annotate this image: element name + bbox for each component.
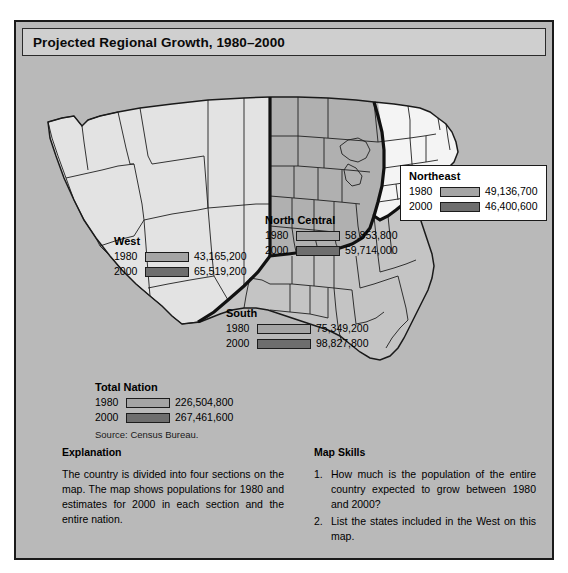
figure-frame: Projected Regional Growth, 1980–2000 .st… <box>14 20 554 560</box>
region-name-west: West <box>114 236 247 247</box>
region-row-nc-1980: 1980 58,853,800 <box>265 229 398 242</box>
bar-1980 <box>145 252 189 262</box>
bar-1980 <box>126 398 170 408</box>
region-label-south: South 1980 75,349,200 2000 98,827,800 <box>226 308 369 352</box>
row-value: 43,165,200 <box>194 251 247 262</box>
row-value: 98,827,800 <box>316 338 369 349</box>
row-value: 58,853,800 <box>345 230 398 241</box>
map-skills-item-2: 2. List the states included in the West … <box>314 514 536 544</box>
region-row-total-1980: 1980 226,504,800 <box>95 396 233 409</box>
row-value: 267,461,600 <box>175 412 233 423</box>
region-label-total-nation: Total Nation 1980 226,504,800 2000 267,4… <box>95 382 233 426</box>
page-root: Projected Regional Growth, 1980–2000 .st… <box>0 0 568 573</box>
region-row-south-1980: 1980 75,349,200 <box>226 322 369 335</box>
item-text: List the states included in the West on … <box>331 515 536 542</box>
region-name-north-central: North Central <box>265 215 398 226</box>
explanation-body: The country is divided into four section… <box>62 467 284 527</box>
figure-title-bar: Projected Regional Growth, 1980–2000 <box>22 28 546 56</box>
row-value: 65,519,200 <box>194 266 247 277</box>
explanation-column: Explanation The country is divided into … <box>62 446 284 527</box>
item-number: 1. <box>314 467 323 482</box>
row-year: 1980 <box>95 397 126 408</box>
row-year: 2000 <box>409 201 440 212</box>
map-area: .st-line { fill:none; stroke:#1f1f1f; st… <box>22 60 546 442</box>
bar-2000 <box>145 267 189 277</box>
region-label-north-central: North Central 1980 58,853,800 2000 59,71… <box>265 215 398 259</box>
item-text: How much is the population of the entire… <box>331 468 536 510</box>
region-row-west-1980: 1980 43,165,200 <box>114 250 247 263</box>
row-value: 49,136,700 <box>485 186 538 197</box>
bar-1980 <box>440 187 480 197</box>
row-year: 2000 <box>114 266 145 277</box>
bottom-text-panel: Explanation The country is divided into … <box>22 446 546 552</box>
bar-2000 <box>440 202 480 212</box>
region-label-west: West 1980 43,165,200 2000 65,519,200 <box>114 236 247 280</box>
region-row-total-2000: 2000 267,461,600 <box>95 411 233 424</box>
region-name-total-nation: Total Nation <box>95 382 233 393</box>
region-row-south-2000: 2000 98,827,800 <box>226 337 369 350</box>
row-year: 1980 <box>114 251 145 262</box>
region-west-fill <box>48 97 270 324</box>
map-skills-list: 1. How much is the population of the ent… <box>314 467 536 544</box>
row-year: 2000 <box>226 338 257 349</box>
region-row-ne-2000: 2000 46,400,600 <box>409 200 538 213</box>
row-year: 2000 <box>265 245 296 256</box>
row-year: 1980 <box>265 230 296 241</box>
row-year: 2000 <box>95 412 126 423</box>
region-label-northeast: Northeast 1980 49,136,700 2000 46,400,60… <box>400 165 547 221</box>
map-skills-item-1: 1. How much is the population of the ent… <box>314 467 536 512</box>
bar-2000 <box>257 339 311 349</box>
item-number: 2. <box>314 514 323 529</box>
region-row-west-2000: 2000 65,519,200 <box>114 265 247 278</box>
bar-1980 <box>296 231 340 241</box>
explanation-heading: Explanation <box>62 446 284 458</box>
region-name-south: South <box>226 308 369 319</box>
row-year: 1980 <box>226 323 257 334</box>
region-name-northeast: Northeast <box>409 171 538 182</box>
row-value: 46,400,600 <box>485 201 538 212</box>
bar-2000 <box>126 413 170 423</box>
map-skills-column: Map Skills 1. How much is the population… <box>314 446 536 546</box>
row-value: 226,504,800 <box>175 397 233 408</box>
source-note: Source: Census Bureau. <box>95 429 199 440</box>
region-row-ne-1980: 1980 49,136,700 <box>409 185 538 198</box>
bar-2000 <box>296 246 340 256</box>
figure-title: Projected Regional Growth, 1980–2000 <box>23 35 285 50</box>
row-value: 75,349,200 <box>316 323 369 334</box>
row-year: 1980 <box>409 186 440 197</box>
region-row-nc-2000: 2000 59,714,000 <box>265 244 398 257</box>
map-skills-heading: Map Skills <box>314 446 536 458</box>
bar-1980 <box>257 324 311 334</box>
row-value: 59,714,000 <box>345 245 398 256</box>
